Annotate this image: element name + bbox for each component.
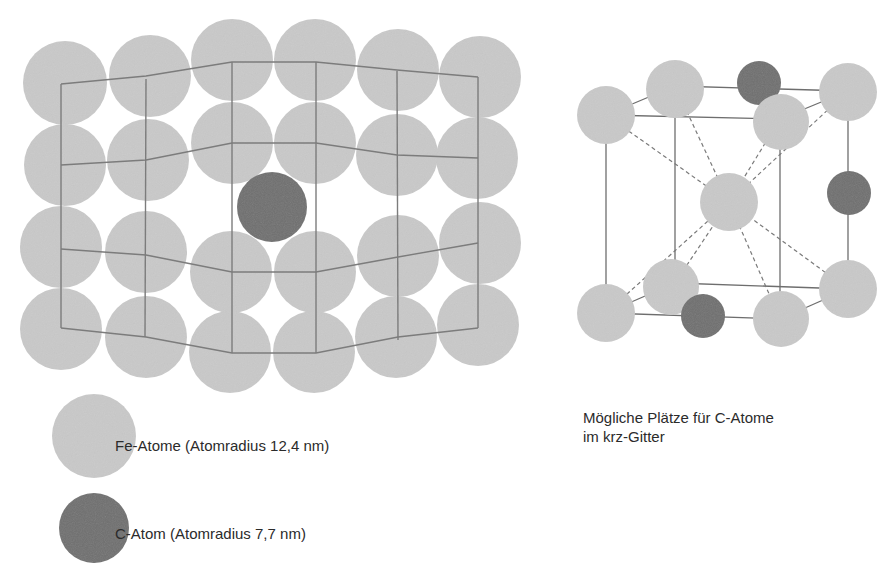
fe-atom [439,202,521,284]
caption-line-1: Mögliche Plätze für C-Atome [583,408,883,427]
diagram-canvas [0,0,894,587]
legend-fe-label: Fe-Atome (Atomradius 12,4 nm) [115,436,329,455]
fe-atom-corner [753,291,809,347]
caption-line-2: im krz-Gitter [583,427,883,446]
fe-atom-center [700,173,758,231]
bcc-caption: Mögliche Plätze für C-Atome im krz-Gitte… [583,408,883,446]
fe-atom-corner [753,94,809,150]
fe-atom-corner [577,86,635,144]
fe-atom-corner [819,63,877,121]
fe-atom-corner [819,260,877,318]
fe-atom-corner [646,60,704,118]
fe-atom [439,36,521,118]
c-atom-interstitial [237,172,307,242]
fe-atom [273,311,355,393]
fe-atom-corner [577,284,635,342]
legend-c-label: C-Atom (Atomradius 7,7 nm) [115,524,306,543]
c-atom-site [681,294,725,338]
c-atom-site [827,171,871,215]
bcc-unit-cell [577,60,877,347]
fe-atom [274,19,356,101]
